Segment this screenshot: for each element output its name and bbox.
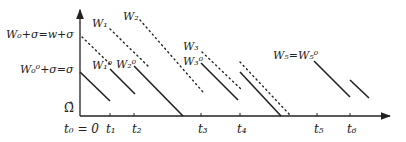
curve-label-W1: W₁ — [92, 18, 108, 29]
curve-label-W2: W₂ — [123, 11, 139, 22]
workload-diagram: W₀+σ=w+σ W₀⁰+σ=σ Ω̂ t₀ = 0 t₁ t₂ t₃ t₄ t… — [0, 0, 406, 142]
tick-label-t5: t₅ — [314, 123, 324, 135]
curve-label-W1-0: W₁⁰ — [92, 60, 112, 71]
curve-label-W3: W₃ — [183, 41, 199, 52]
tick-label-t1: t₁ — [106, 123, 116, 135]
tick-label-t2: t₂ — [132, 123, 142, 135]
y-label-lower: W₀⁰+σ=σ — [20, 64, 74, 75]
tick-label-t6: t₆ — [347, 123, 357, 135]
tick-label-t4: t₄ — [237, 123, 247, 135]
y-label-upper: W₀+σ=w+σ — [6, 29, 74, 40]
curve-label-W2-0: W₂⁰ — [116, 59, 136, 70]
y-axis-omega-label: Ω̂ — [64, 102, 74, 114]
curve-label-W5: W₅=W₅⁰ — [273, 50, 318, 61]
tick-label-t0: t₀ = 0 — [64, 123, 99, 135]
curve-label-W3-0: W₃⁰ — [183, 56, 203, 67]
tick-label-t3: t₃ — [198, 123, 208, 135]
